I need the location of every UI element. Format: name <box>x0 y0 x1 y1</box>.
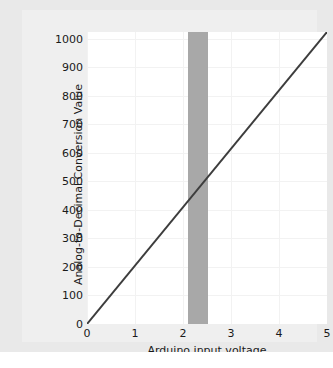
adc-conversion-line <box>87 32 327 324</box>
y-axis-title-wrapper: Analog-to-Decimal Conversion Value <box>52 32 66 324</box>
x-axis-ticks: 012345 <box>87 328 327 342</box>
bottom-margin <box>0 352 333 368</box>
chart-figure: 01002003004005006007008009001000 012345 … <box>0 0 333 352</box>
x-tick-label: 2 <box>180 328 187 339</box>
y-tick-label: 0 <box>76 319 83 330</box>
x-tick-label: 0 <box>84 328 91 339</box>
x-tick-label: 1 <box>132 328 139 339</box>
x-tick-label: 3 <box>228 328 235 339</box>
x-tick-label: 4 <box>276 328 283 339</box>
y-axis-title: Analog-to-Decimal Conversion Value <box>72 75 85 295</box>
plot-area <box>87 32 327 324</box>
chart-canvas: 01002003004005006007008009001000 012345 … <box>22 10 317 342</box>
x-tick-label: 5 <box>324 328 331 339</box>
line-segment <box>87 32 327 324</box>
